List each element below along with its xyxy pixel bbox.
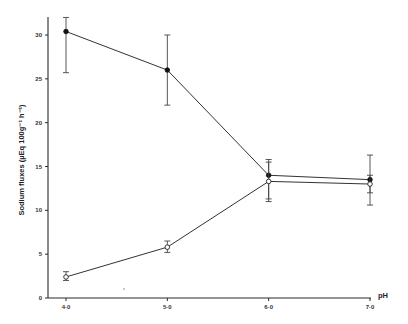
data-point-open	[64, 275, 69, 280]
stray-dot	[123, 288, 124, 289]
x-tick-label: 6·0	[264, 304, 273, 310]
data-point-open	[165, 245, 170, 250]
y-tick-label: 5	[39, 251, 43, 257]
data-point-open	[266, 179, 271, 184]
y-tick-label: 20	[35, 120, 42, 126]
y-tick-label: 30	[35, 32, 42, 38]
x-ticks: 4·05·06·07·0	[62, 298, 375, 310]
data-point-filled	[165, 68, 170, 73]
series-line-filled	[66, 31, 370, 179]
data-point-open	[368, 182, 373, 187]
data-point-filled	[64, 29, 69, 34]
y-tick-label: 15	[35, 164, 42, 170]
series-layer	[63, 17, 373, 280]
series-filled	[63, 17, 373, 198]
x-tick-label: 5·0	[163, 304, 172, 310]
x-tick-label: 4·0	[62, 304, 71, 310]
series-open	[63, 162, 373, 280]
error-bar	[63, 17, 69, 72]
y-axis-label: Sodium fluxes (µEq 100g⁻¹ h⁻¹)	[17, 104, 26, 216]
chart: 051015202530 4·05·06·07·0 Sodium fluxes …	[0, 0, 408, 324]
x-axis-label: pH	[378, 291, 388, 300]
x-tick-label: 7·0	[366, 304, 375, 310]
y-tick-label: 10	[35, 207, 42, 213]
axes	[48, 17, 371, 298]
y-tick-label: 0	[39, 295, 43, 301]
y-ticks: 051015202530	[35, 32, 48, 301]
series-line-open	[66, 181, 370, 277]
y-tick-label: 25	[35, 76, 42, 82]
